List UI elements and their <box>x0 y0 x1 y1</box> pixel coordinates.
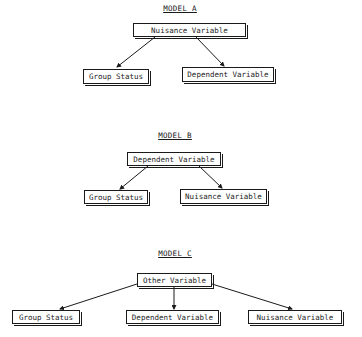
model-c-top-node: Other Variable <box>137 273 212 287</box>
model-a-dependent-node: Dependent Variable <box>182 67 274 82</box>
arrow-a-group <box>117 37 155 67</box>
model-b-top-node: Dependent Variable <box>127 152 221 166</box>
arrow-c-nuisance <box>212 284 292 309</box>
model-c-title: MODEL C <box>158 249 192 258</box>
model-c-group-status-node: Group Status <box>12 310 80 324</box>
model-a-group-status-node: Group Status <box>83 69 149 84</box>
model-b-title: MODEL B <box>158 131 192 140</box>
arrow-a-dependent <box>196 37 224 66</box>
model-b-group-status-node: Group Status <box>84 190 148 204</box>
model-b-nuisance-node: Nuisance Variable <box>180 189 267 204</box>
model-c-dependent-node: Dependent Variable <box>126 310 219 324</box>
arrow-b-group <box>120 166 148 189</box>
model-c-nuisance-node: Nuisance Variable <box>248 310 342 324</box>
arrow-c-group <box>60 284 137 309</box>
arrow-b-nuisance <box>199 166 222 188</box>
model-a-title: MODEL A <box>163 4 197 13</box>
model-a-top-node: Nuisance Variable <box>133 23 246 37</box>
